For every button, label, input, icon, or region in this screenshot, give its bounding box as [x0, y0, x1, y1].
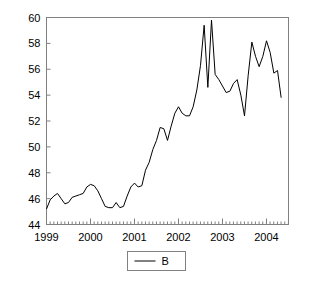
- x-tick-label: 2003: [210, 231, 234, 243]
- y-tick-label: 48: [28, 167, 40, 179]
- y-tick-label: 44: [28, 219, 40, 231]
- y-tick-label: 58: [28, 37, 40, 49]
- chart-legend: B: [128, 252, 186, 271]
- y-tick-label: 50: [28, 141, 40, 153]
- x-tick-label: 2000: [78, 231, 102, 243]
- y-tick-label: 46: [28, 193, 40, 205]
- y-tick-label: 60: [28, 12, 40, 24]
- x-tick-label: 2004: [254, 231, 278, 243]
- chart-container: 444648505254565860 199920002001200220032…: [0, 0, 311, 282]
- legend-label: B: [162, 255, 169, 267]
- x-tick-label: 2001: [122, 231, 146, 243]
- y-tick-label: 56: [28, 63, 40, 75]
- x-axis-minor-ticks: [47, 222, 289, 225]
- y-tick-label: 52: [28, 115, 40, 127]
- x-tick-label: 1999: [34, 231, 58, 243]
- line-chart: 444648505254565860 199920002001200220032…: [0, 0, 311, 282]
- y-tick-label: 54: [28, 89, 40, 101]
- y-axis-labels: 444648505254565860: [28, 12, 40, 231]
- x-tick-label: 2002: [166, 231, 190, 243]
